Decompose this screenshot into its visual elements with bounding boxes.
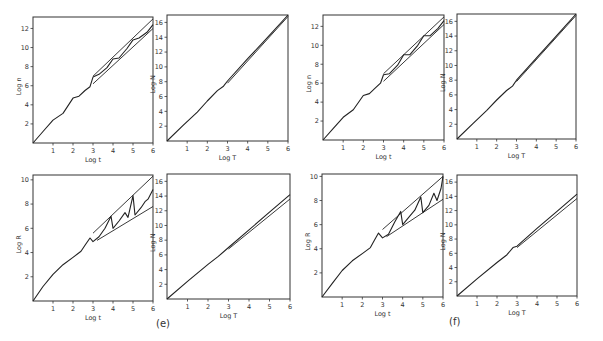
x-axis-label: Log t [85,314,102,322]
y-tick-label: 8 [159,236,163,244]
plot-frame [457,175,577,296]
x-tick-label: 2 [71,147,75,155]
y-tick-label: 12 [155,207,163,215]
y-tick-label: 4 [449,106,453,114]
envelope-line [384,25,445,82]
y-tick-label: 10 [311,42,319,50]
x-tick-label: 5 [267,303,271,311]
x-axis-label: Log t [375,153,392,161]
y-tick-label: 10 [310,173,318,181]
envelope-line [517,199,577,248]
y-tick-label: 16 [445,18,453,26]
y-axis-label: Log N [149,233,157,252]
y-axis-label: Log n [305,75,313,93]
data-line [167,15,288,141]
data-line [33,190,153,302]
data-line [457,14,576,139]
x-tick-label: 1 [341,144,345,152]
y-tick-label: 2 [159,281,163,289]
x-tick-label: 5 [131,305,135,313]
y-tick-label: 4 [449,264,453,272]
x-tick-label: 1 [51,147,55,155]
chart-panel-f-top-right: 123456246810121416Log TLog N [457,14,576,139]
y-tick-label: 2 [315,117,319,125]
y-tick-label: 2 [449,121,453,129]
y-tick-label: 14 [445,193,453,201]
y-tick-label: 2 [25,120,29,128]
y-tick-label: 2 [159,122,163,130]
x-tick-label: 1 [340,301,344,309]
y-tick-label: 6 [449,250,453,258]
y-tick-label: 4 [315,98,319,106]
x-tick-label: 4 [247,303,251,311]
y-tick-label: 12 [311,23,319,31]
y-tick-label: 8 [449,235,453,243]
y-axis-label: Log N [439,232,447,251]
y-tick-label: 6 [25,225,29,233]
x-tick-label: 4 [534,143,538,151]
x-tick-label: 5 [266,145,270,153]
x-tick-label: 1 [185,145,189,153]
envelope-line [97,207,153,241]
x-tick-label: 5 [131,147,135,155]
y-tick-label: 4 [159,108,163,116]
y-axis-label: Log N [149,75,157,94]
y-tick-label: 14 [155,192,163,200]
x-tick-label: 2 [71,305,75,313]
x-axis-label: Log T [220,312,238,320]
x-tick-label: 1 [51,305,55,313]
y-tick-label: 6 [315,79,319,87]
x-tick-label: 6 [574,143,578,151]
x-axis-label: Log t [374,310,391,318]
x-tick-label: 4 [246,145,250,153]
y-tick-label: 8 [25,63,29,71]
y-tick-label: 12 [445,47,453,55]
chart-panel-e-top-right: 123456246810121416Log TLog N [167,15,288,141]
envelope-line [93,29,153,84]
chart-panel-e-bottom-right: 123456246810121416Log TLog N [167,174,290,299]
x-tick-label: 2 [495,143,499,151]
y-tick-label: 12 [155,48,163,56]
envelope-line [383,176,444,229]
y-tick-label: 10 [21,176,29,184]
x-tick-label: 2 [206,303,210,311]
y-tick-label: 2 [25,273,29,281]
y-tick-label: 4 [314,245,318,253]
chart-panel-f-top-left: 12345624681012Log tLog n [323,15,444,140]
y-tick-label: 6 [159,93,163,101]
plot-frame [167,15,288,141]
x-tick-label: 2 [360,301,364,309]
y-tick-label: 8 [314,197,318,205]
y-tick-label: 6 [449,91,453,99]
data-line [167,195,290,299]
x-tick-label: 6 [441,301,445,309]
x-tick-label: 6 [286,145,290,153]
x-tick-label: 4 [111,305,115,313]
envelope-line [384,17,445,74]
y-tick-label: 4 [25,101,29,109]
y-tick-label: 10 [445,62,453,70]
x-tick-label: 3 [381,144,385,152]
x-tick-label: 4 [401,301,405,309]
x-tick-label: 2 [495,300,499,308]
y-axis-label: Log R [15,235,23,254]
x-tick-label: 5 [422,144,426,152]
y-tick-label: 16 [155,178,163,186]
data-line [323,21,444,140]
x-tick-label: 3 [515,300,519,308]
y-tick-label: 8 [159,78,163,86]
envelope-line [93,19,153,76]
x-tick-label: 2 [361,144,365,152]
x-tick-label: 6 [288,303,292,311]
x-tick-label: 4 [111,147,115,155]
x-tick-label: 3 [226,303,230,311]
x-tick-label: 2 [205,145,209,153]
y-tick-label: 10 [155,222,163,230]
x-tick-label: 6 [575,300,579,308]
x-tick-label: 4 [402,144,406,152]
y-axis-label: Log n [15,77,23,95]
chart-panel-f-bottom-left: 123456246810Log tLog R [322,174,443,297]
figure-label-e: (e) [156,318,170,329]
envelope-line [517,16,577,82]
x-tick-label: 5 [555,300,559,308]
